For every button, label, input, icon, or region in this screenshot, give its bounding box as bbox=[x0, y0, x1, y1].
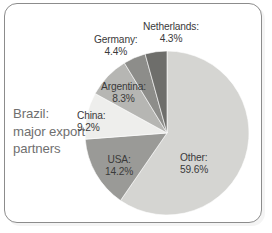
slice-label-netherlands-name: Netherlands: bbox=[143, 21, 199, 33]
slice-label-china: China: 9.2% bbox=[77, 110, 106, 134]
slice-label-usa-value: 14.2% bbox=[105, 166, 133, 178]
slice-label-netherlands: Netherlands: 4.3% bbox=[143, 21, 199, 45]
slice-label-other: Other: 59.6% bbox=[180, 152, 208, 176]
slice-label-germany-value: 4.4% bbox=[94, 46, 138, 58]
slice-label-netherlands-value: 4.3% bbox=[143, 33, 199, 45]
slice-label-argentina-value: 8.3% bbox=[101, 93, 146, 105]
slice-label-other-value: 59.6% bbox=[180, 164, 208, 176]
slice-label-china-value: 9.2% bbox=[77, 122, 106, 134]
slice-label-usa-name: USA: bbox=[105, 154, 133, 166]
chart-title-line-3: partners bbox=[13, 140, 91, 158]
pie-chart-figure: Brazil: major export partners Netherland… bbox=[0, 0, 272, 233]
slice-label-usa: USA: 14.2% bbox=[105, 154, 133, 178]
slice-label-china-name: China: bbox=[77, 110, 106, 122]
slice-label-germany-name: Germany: bbox=[94, 34, 138, 46]
slice-label-germany: Germany: 4.4% bbox=[94, 34, 138, 58]
slice-label-argentina: Argentina: 8.3% bbox=[101, 81, 146, 105]
slice-label-argentina-name: Argentina: bbox=[101, 81, 146, 93]
slice-label-other-name: Other: bbox=[180, 152, 208, 164]
pie-slice-group bbox=[85, 51, 249, 215]
